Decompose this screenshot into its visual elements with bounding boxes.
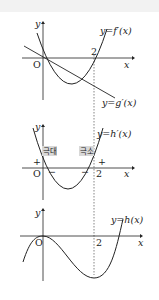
tick-label-2: 2 (91, 46, 97, 57)
h-curve (23, 219, 123, 278)
origin-label: O (33, 168, 41, 179)
f-prime-curve (37, 29, 107, 84)
panel-middle: y x O 2 y=h′(x) 극대 극소 + − − + (22, 121, 135, 200)
tick-label-2: 2 (96, 168, 102, 179)
h-prime-label: y=h′(x) (96, 128, 132, 139)
f-prime-label: y=f′(x) (99, 25, 132, 36)
panel-bottom: y x O 2 y=h(x) (20, 207, 144, 281)
max-label: 극대 (43, 147, 57, 156)
y-axis-label: y (34, 18, 41, 29)
g-prime-line (24, 46, 115, 98)
sign-minus-left: − (48, 166, 56, 177)
x-axis-label: x (124, 59, 130, 70)
origin-label: O (33, 59, 41, 70)
h-prime-curve (33, 128, 103, 189)
origin-label: O (35, 237, 43, 248)
sign-minus-right: − (81, 166, 89, 177)
sign-plus-left: + (33, 156, 41, 167)
min-label: 극소 (80, 147, 94, 156)
graph-figure: y x O 2 y=f′(x) y=g′(x) y x O 2 y=h′(x) … (0, 0, 159, 300)
y-axis-label: y (34, 121, 41, 132)
sign-plus-right: + (98, 156, 106, 167)
x-axis-label: x (138, 237, 144, 248)
g-prime-label: y=g′(x) (101, 97, 137, 108)
y-axis-label: y (34, 207, 41, 218)
panel-top: y x O 2 y=f′(x) y=g′(x) (22, 18, 137, 108)
x-axis-label: x (124, 168, 130, 179)
h-label: y=h(x) (110, 214, 144, 225)
tick-label-2: 2 (96, 237, 102, 248)
